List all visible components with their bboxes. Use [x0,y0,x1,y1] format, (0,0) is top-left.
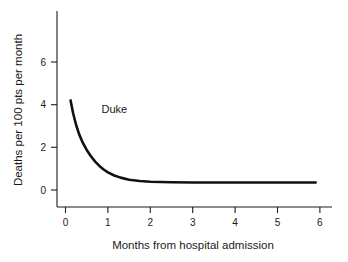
y-tick-label-0: 0 [40,185,46,196]
x-tick-label-3: 3 [190,217,196,228]
x-tick-label-5: 5 [275,217,281,228]
x-tick-label-2: 2 [148,217,154,228]
series-annotation-duke: Duke [102,103,128,115]
chart-figure: 0 2 4 6 0 1 2 3 4 5 6 Duke Months from h… [0,0,348,262]
y-tick-marks [51,62,57,190]
chart-plot-area: 0 2 4 6 0 1 2 3 4 5 6 Duke Months from h… [0,0,348,262]
y-tick-label-6: 6 [40,57,46,68]
x-tick-label-6: 6 [317,217,323,228]
y-tick-label-4: 4 [40,99,46,110]
y-axis-title: Deaths per 100 pts per month [12,34,24,186]
x-tick-label-1: 1 [105,217,111,228]
x-tick-label-0: 0 [63,217,69,228]
y-tick-label-2: 2 [40,142,46,153]
x-tick-marks [66,207,320,213]
x-tick-label-4: 4 [232,217,238,228]
x-axis-title: Months from hospital admission [112,239,274,251]
